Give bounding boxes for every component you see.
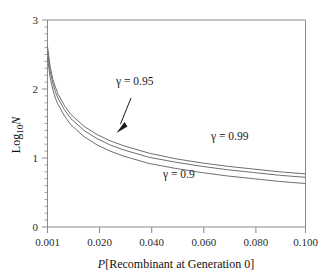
data-curves (48, 46, 306, 183)
gamma-095-annotation: γ = 0.95 (115, 75, 154, 88)
y-tick-label: 0 (33, 221, 39, 233)
y-tick-label: 1 (33, 152, 39, 164)
gamma-09-annotation: γ = 0.9 (162, 168, 195, 181)
x-tick-label: 0.080 (244, 236, 269, 248)
x-tick-label: 0.100 (293, 236, 318, 248)
x-tick-label: 0.020 (87, 236, 112, 248)
svg-text:P[Recombinant at Generation 0]: P[Recombinant at Generation 0] (97, 257, 254, 271)
chart-figure: 0123 0.0010.0200.0400.0600.0800.100 γ = … (0, 0, 325, 280)
x-axis-major-ticks (48, 227, 306, 233)
x-tick-label: 0.040 (139, 236, 164, 248)
x-axis-title: P[Recombinant at Generation 0] (97, 257, 254, 271)
curve-0 (48, 46, 306, 174)
x-tick-label: 0.001 (35, 236, 60, 248)
curve-2 (48, 57, 306, 183)
x-axis-title-rest: [Recombinant at Generation 0] (105, 257, 254, 271)
gamma-099-annotation: γ = 0.99 (210, 130, 249, 143)
y-tick-labels: 0123 (33, 14, 39, 233)
line-chart-canvas: 0123 0.0010.0200.0400.0600.0800.100 γ = … (0, 0, 325, 280)
x-tick-label: 0.060 (191, 236, 216, 248)
y-tick-label: 3 (33, 14, 39, 26)
y-axis-title-base: Log (9, 134, 23, 153)
x-tick-labels: 0.0010.0200.0400.0600.0800.100 (35, 236, 318, 248)
y-tick-label: 2 (33, 83, 39, 95)
plot-frame (48, 20, 306, 227)
y-axis-title: Log10N (9, 116, 25, 153)
svg-text:Log10N: Log10N (9, 116, 25, 153)
curve-1 (48, 51, 306, 177)
series-annotations: γ = 0.95γ = 0.99γ = 0.9 (115, 75, 249, 181)
gamma-095-leader (117, 98, 132, 133)
y-axis-title-variable: N (9, 116, 23, 126)
